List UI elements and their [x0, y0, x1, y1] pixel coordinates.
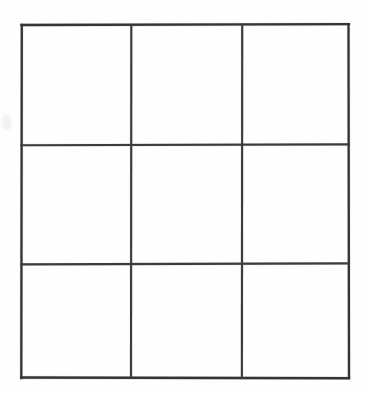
- grid-cell-r3c1[interactable]: [21, 264, 131, 378]
- grid-cell-r1c2[interactable]: [131, 24, 242, 145]
- grid-cell-r3c3[interactable]: [242, 264, 349, 378]
- page-canvas: [0, 0, 369, 394]
- grid-cell-r1c1[interactable]: [21, 24, 131, 145]
- grid-cell-r1c3[interactable]: [242, 24, 349, 145]
- grid-cell-r2c1[interactable]: [21, 145, 131, 264]
- grid-cell-r3c2[interactable]: [131, 264, 242, 378]
- grid-cell-r2c3[interactable]: [242, 145, 349, 264]
- grid-cell-r2c2[interactable]: [131, 145, 242, 264]
- grid-cell-layer: [0, 0, 369, 394]
